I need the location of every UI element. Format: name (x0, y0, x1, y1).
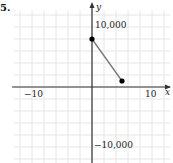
data-series (89, 36, 124, 83)
axes (12, 2, 171, 163)
y-tick-label-negative: −10,000 (94, 141, 133, 150)
coordinate-plane (0, 0, 173, 163)
x-axis-label: x (165, 88, 170, 97)
y-axis-label: y (96, 3, 101, 12)
x-tick-label-positive: 10 (145, 90, 156, 99)
y-tick-label-positive: 10,000 (95, 21, 127, 30)
x-tick-label-negative: −10 (24, 90, 43, 99)
data-point (119, 78, 124, 83)
data-point (89, 36, 94, 41)
